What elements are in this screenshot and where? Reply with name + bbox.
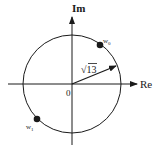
origin-label: 0 xyxy=(66,88,71,98)
w0-label: w0 xyxy=(103,37,111,46)
point-w1 xyxy=(34,116,41,123)
complex-plane-diagram: Im Re 0 √13 w0 w1 xyxy=(0,0,159,149)
imag-axis-label: Im xyxy=(72,2,85,14)
real-axis-label: Re xyxy=(140,78,152,90)
radius-label: √13 xyxy=(81,64,97,76)
w1-label: w1 xyxy=(26,123,34,132)
svg-text:√13: √13 xyxy=(81,64,97,75)
